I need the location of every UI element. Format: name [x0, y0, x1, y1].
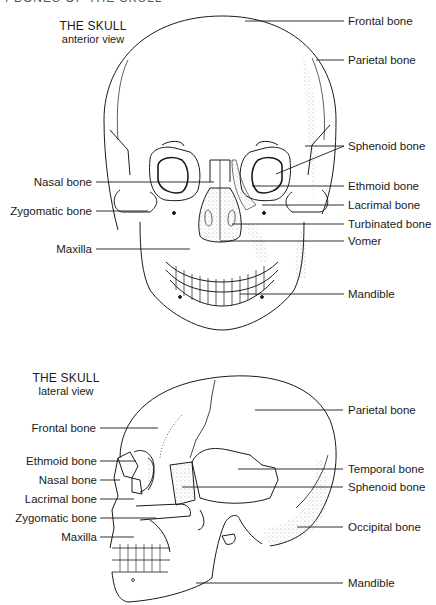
anterior-title: THE SKULL anterior view [48, 20, 138, 46]
anterior-title-sub: anterior view [48, 33, 138, 46]
lateral-title-main: THE SKULL [26, 372, 106, 385]
label-zygomatic-bone-lateral: Zygomatic bone [15, 512, 97, 525]
label-frontal-bone-anterior: Frontal bone [348, 15, 413, 28]
label-temporal-bone-lateral: Temporal bone [348, 463, 424, 476]
label-parietal-bone-anterior: Parietal bone [348, 54, 416, 67]
label-frontal-bone-lateral: Frontal bone [31, 422, 96, 435]
lateral-title: THE SKULL lateral view [26, 372, 106, 398]
anterior-leader-lines [96, 21, 344, 294]
label-sphenoid-bone-anterior: Sphenoid bone [348, 140, 425, 153]
label-nasal-bone-lateral: Nasal bone [39, 474, 97, 487]
label-vomer-anterior: Vomer [348, 235, 381, 248]
label-ethmoid-bone-anterior: Ethmoid bone [348, 180, 419, 193]
label-sphenoid-bone-lateral: Sphenoid bone [348, 481, 425, 494]
label-lacrimal-bone-lateral: Lacrimal bone [25, 493, 97, 506]
anterior-skull-drawing [104, 16, 336, 330]
anterior-title-main: THE SKULL [48, 20, 138, 33]
label-mandible-anterior: Mandible [348, 288, 395, 301]
label-maxilla-anterior: Maxilla [56, 243, 92, 256]
label-ethmoid-bone-lateral: Ethmoid bone [26, 455, 97, 468]
label-nasal-bone-anterior: Nasal bone [34, 176, 92, 189]
label-mandible-lateral: Mandible [348, 577, 395, 590]
label-maxilla-lateral: Maxilla [61, 531, 97, 544]
label-parietal-bone-lateral: Parietal bone [348, 404, 416, 417]
label-turbinated-bone-anterior: Turbinated bone [348, 218, 431, 231]
lateral-title-sub: lateral view [26, 385, 106, 398]
label-lacrimal-bone-anterior: Lacrimal bone [348, 199, 420, 212]
label-zygomatic-bone-anterior: Zygomatic bone [10, 205, 92, 218]
label-occipital-bone-lateral: Occipital bone [348, 521, 421, 534]
